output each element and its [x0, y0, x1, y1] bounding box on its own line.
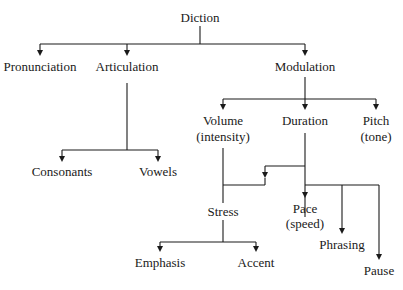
node-modulation: Modulation: [275, 59, 336, 74]
node-diction: Diction: [181, 10, 220, 25]
node-emphasis: Emphasis: [135, 255, 186, 270]
diction-tree-diagram: Diction Pronunciation Articulation Modul…: [0, 0, 403, 290]
node-pause: Pause: [364, 263, 394, 278]
node-consonants: Consonants: [32, 164, 93, 179]
node-stress: Stress: [207, 204, 238, 219]
node-pace-sub: (speed): [286, 216, 324, 231]
node-duration: Duration: [282, 113, 328, 128]
node-vowels: Vowels: [139, 164, 177, 179]
node-pace: Pace: [293, 201, 318, 216]
node-pronunciation: Pronunciation: [4, 59, 77, 74]
node-articulation: Articulation: [96, 59, 159, 74]
node-pitch: Pitch: [363, 113, 390, 128]
node-volume-sub: (intensity): [196, 129, 249, 144]
node-pitch-sub: (tone): [360, 129, 391, 144]
node-accent: Accent: [238, 255, 275, 270]
node-phrasing: Phrasing: [319, 237, 365, 252]
node-volume: Volume: [203, 113, 243, 128]
